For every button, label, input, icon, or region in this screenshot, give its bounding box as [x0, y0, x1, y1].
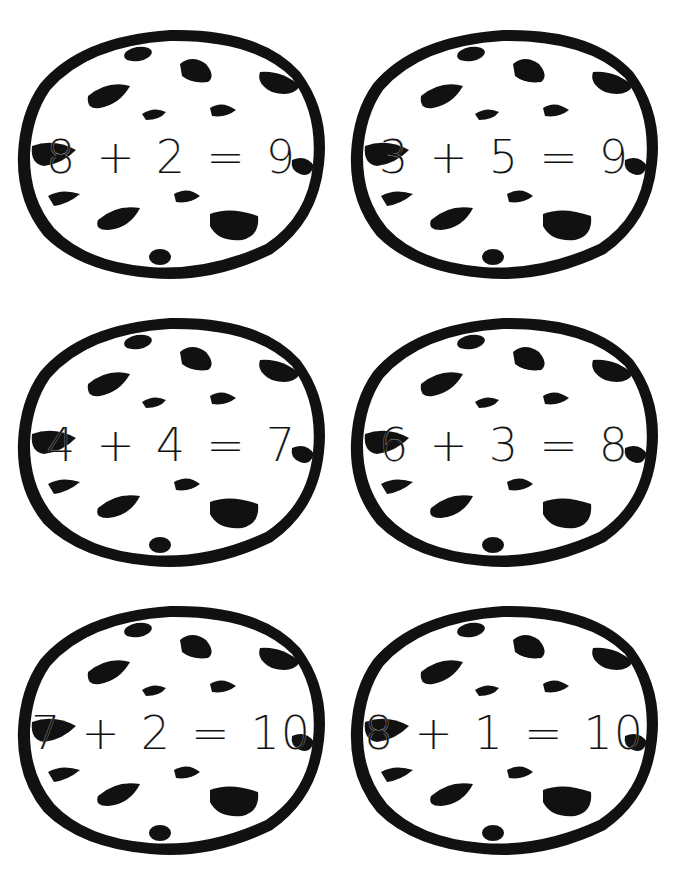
addend-b: 4 [156, 420, 186, 470]
equation: 3+5=9 [343, 132, 665, 182]
cookie-card-3: 4+4=7 [10, 302, 332, 572]
result: 9 [599, 132, 629, 182]
plus-sign: + [429, 132, 469, 182]
cookie-card-6: 8+1=10 [343, 590, 665, 860]
equals-sign: = [524, 708, 564, 758]
cookie-card-4: 6+3=8 [343, 302, 665, 572]
addend-a: 4 [46, 420, 76, 470]
equation: 8+2=9 [10, 132, 332, 182]
result: 8 [599, 420, 629, 470]
addend-a: 3 [379, 132, 409, 182]
result: 10 [584, 708, 645, 758]
cookie-card-2: 3+5=9 [343, 14, 665, 284]
equals-sign: = [539, 420, 579, 470]
plus-sign: + [96, 132, 136, 182]
equation: 8+1=10 [343, 708, 665, 758]
equation: 7+2=10 [10, 708, 332, 758]
result: 7 [266, 420, 296, 470]
cookie-card-5: 7+2=10 [10, 590, 332, 860]
equation: 6+3=8 [343, 420, 665, 470]
addend-a: 7 [31, 708, 61, 758]
equation: 4+4=7 [10, 420, 332, 470]
addend-b: 1 [474, 708, 504, 758]
plus-sign: + [414, 708, 454, 758]
equals-sign: = [206, 132, 246, 182]
result: 9 [266, 132, 296, 182]
addend-b: 2 [156, 132, 186, 182]
addend-a: 8 [46, 132, 76, 182]
addend-b: 2 [141, 708, 171, 758]
addend-a: 8 [364, 708, 394, 758]
equals-sign: = [191, 708, 231, 758]
addend-b: 5 [489, 132, 519, 182]
equals-sign: = [539, 132, 579, 182]
plus-sign: + [81, 708, 121, 758]
result: 10 [251, 708, 312, 758]
equals-sign: = [206, 420, 246, 470]
plus-sign: + [96, 420, 136, 470]
plus-sign: + [429, 420, 469, 470]
addend-a: 6 [379, 420, 409, 470]
cookie-card-1: 8+2=9 [10, 14, 332, 284]
addend-b: 3 [489, 420, 519, 470]
